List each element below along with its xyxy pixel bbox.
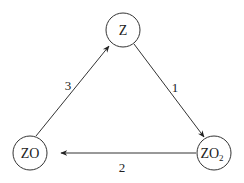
edge-zo-to-z xyxy=(36,46,109,136)
node-zo: ZO xyxy=(13,136,47,170)
edge-label-2: 2 xyxy=(119,160,126,175)
edge-label-3: 3 xyxy=(65,78,72,93)
cycle-diagram: 1 2 3 Z ZO ZO2 xyxy=(0,0,244,183)
node-z-label: Z xyxy=(119,23,128,38)
node-zo2: ZO2 xyxy=(197,136,231,170)
edge-label-1: 1 xyxy=(172,80,179,95)
node-zo-label: ZO xyxy=(21,146,40,161)
edge-z-to-zo2 xyxy=(134,44,204,137)
node-z: Z xyxy=(106,13,140,47)
node-zo2-subscript: 2 xyxy=(219,153,224,163)
